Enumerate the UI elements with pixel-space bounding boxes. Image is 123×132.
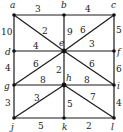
edge-weight-c-e: 6 <box>80 25 86 35</box>
node-label-j: j <box>9 122 14 132</box>
edge-a-e <box>14 15 64 51</box>
node-label-d: d <box>5 47 11 57</box>
node-j <box>12 116 16 120</box>
edge-weight-e-h: 2 <box>56 65 62 75</box>
node-label-b: b <box>61 0 67 10</box>
node-b <box>62 13 66 17</box>
edge-weight-a-e: 2 <box>42 26 48 36</box>
node-d <box>12 49 16 53</box>
edge-weight-h-l: 7 <box>90 92 96 102</box>
edge-weight-d-g: 4 <box>5 63 11 73</box>
edge-weight-h-i: 8 <box>84 75 90 85</box>
edge-weight-b-c: 4 <box>85 4 91 14</box>
edge-layer <box>14 15 114 118</box>
edge-weight-h-j: 3 <box>34 93 40 103</box>
node-i <box>112 83 116 87</box>
edge-weight-j-k: 5 <box>38 121 44 131</box>
edge-weight-k-l: 2 <box>86 121 92 131</box>
edge-weight-d-e: 4 <box>33 41 39 51</box>
edge-weight-a-d: 10 <box>1 27 13 37</box>
edge-weight-c-f: 5 <box>116 25 122 35</box>
edge-weight-g-j: 3 <box>5 98 11 108</box>
node-label-k: k <box>62 122 67 132</box>
node-label-c: c <box>111 0 116 10</box>
node-f <box>112 49 116 53</box>
node-label-l: l <box>111 122 114 132</box>
node-label-i: i <box>117 81 120 91</box>
node-label-f: f <box>116 47 122 57</box>
edge-weight-e-f: 3 <box>89 39 95 49</box>
node-e <box>62 49 67 54</box>
edge-weight-h-k: 5 <box>67 99 73 109</box>
node-label-a: a <box>10 0 15 10</box>
edge-weight-e-g: 6 <box>33 59 39 69</box>
weighted-graph-diagram: 341029654346266883357452abcdefghijkl <box>0 0 123 132</box>
node-l <box>112 116 116 120</box>
edge-weight-a-b: 3 <box>35 4 41 14</box>
node-a <box>12 13 16 17</box>
node-k <box>62 116 66 120</box>
node-g <box>12 83 16 87</box>
node-h <box>62 83 67 88</box>
node-label-h: h <box>66 73 72 83</box>
edge-weight-f-i: 6 <box>116 64 122 74</box>
edge-weight-g-h: 8 <box>40 75 46 85</box>
node-label-g: g <box>4 81 10 91</box>
label-layer: 341029654346266883357452abcdefghijkl <box>1 0 122 132</box>
node-c <box>112 13 116 17</box>
edge-weight-b-e: 9 <box>67 27 73 37</box>
edge-weight-i-l: 4 <box>116 98 122 108</box>
node-label-e: e <box>59 38 64 48</box>
edge-weight-e-i: 6 <box>89 59 95 69</box>
